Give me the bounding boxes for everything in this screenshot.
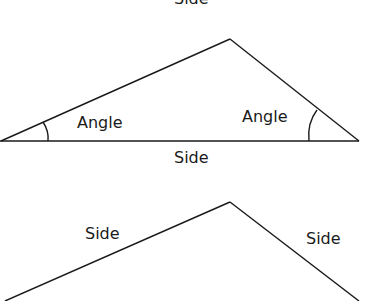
base-side-label: Side [174,150,209,166]
bottom-left-side-label: Side [85,226,120,242]
left-angle-arc [43,122,48,141]
bottom-triangle [5,202,359,301]
bottom-triangle-right-side [230,202,359,301]
top-triangle [0,39,359,141]
bottom-right-side-label: Side [306,231,341,247]
left-angle-label: Angle [77,115,123,131]
right-angle-arc [309,110,317,141]
right-angle-label: Angle [242,109,288,125]
bottom-triangle-left-side [5,202,230,301]
top-side-label: Side [174,0,209,7]
triangle-diagram: Side Angle Angle Side Side Side [0,0,367,301]
